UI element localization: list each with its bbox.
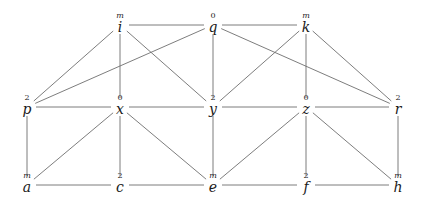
edge-k-y	[220, 31, 299, 101]
node-label: y	[201, 102, 225, 116]
node-label: i	[108, 20, 132, 34]
edge-k-r	[313, 31, 392, 101]
edge-z-e	[220, 113, 299, 179]
node-z: 0 z	[294, 94, 318, 116]
node-e: m e	[201, 172, 225, 194]
node-label: x	[108, 102, 132, 116]
node-label: k	[294, 20, 318, 34]
node-p: 2 p	[15, 94, 39, 116]
node-i: m i	[108, 12, 132, 34]
edge-i-p	[34, 31, 113, 101]
node-r: 2 r	[386, 94, 410, 116]
node-c: 2 c	[108, 172, 132, 194]
edge-x-e	[127, 113, 206, 179]
node-label: a	[15, 180, 39, 194]
node-label: z	[294, 102, 318, 116]
node-label: q	[201, 20, 225, 34]
node-k: m k	[294, 12, 318, 34]
node-x: 0 x	[108, 94, 132, 116]
edge-i-y	[127, 31, 206, 101]
node-label: f	[294, 180, 318, 194]
node-label: c	[108, 180, 132, 194]
node-y: 2 y	[201, 94, 225, 116]
edge-x-a	[34, 113, 113, 179]
node-label: r	[386, 102, 410, 116]
node-a: m a	[15, 172, 39, 194]
node-label: p	[15, 102, 39, 116]
edge-z-h	[313, 113, 391, 179]
node-q: 0 q	[201, 12, 225, 34]
graph-diagram: m i 0 q m k 2 p 0 x 2 y 0 z 2 r m a 2 c …	[0, 0, 425, 202]
node-label: h	[386, 180, 410, 194]
node-label: e	[201, 180, 225, 194]
node-f: 2 f	[294, 172, 318, 194]
node-h: m h	[386, 172, 410, 194]
